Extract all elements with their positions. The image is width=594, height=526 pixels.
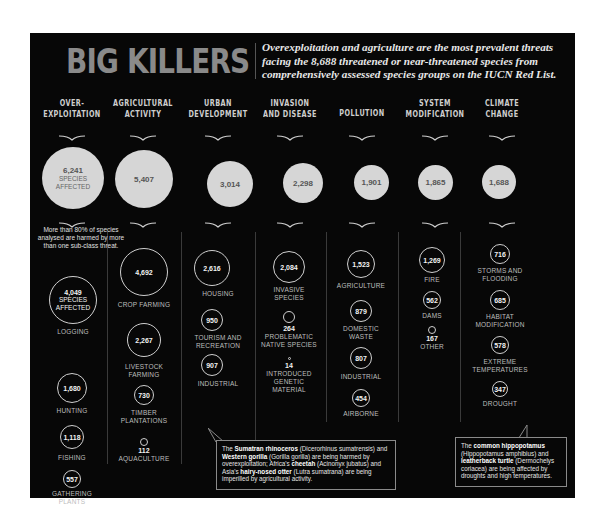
chevron-down-icon	[204, 221, 232, 229]
label-drought: DROUGHT	[460, 400, 540, 408]
value-problematic: 264	[249, 325, 329, 332]
total-circle-system: 1,865	[418, 165, 453, 200]
total-circle-invasion: 2,298	[283, 163, 323, 203]
label-industrial-pollution: INDUSTRIAL	[321, 373, 401, 381]
label-tourism-recreation: TOURISM ANDRECREATION	[178, 334, 258, 350]
chevron-down-icon	[348, 221, 376, 229]
label-logging: LOGGING	[33, 328, 113, 336]
label-industrial: INDUSTRIAL	[178, 380, 258, 388]
heading-invasion: INVASIONAND DISEASE	[255, 99, 325, 120]
heading-agricultural: AGRICULTURALACTIVITY	[108, 99, 178, 120]
label-introduced-genetic-material: INTRODUCEDGENETICMATERIAL	[249, 370, 329, 394]
page-title: BIG KILLERS	[66, 41, 249, 81]
sub-circle-drought: 347	[492, 381, 508, 397]
label-airborne: AIRBORNE	[321, 410, 401, 418]
total-circle-urban: 3,014	[207, 161, 253, 207]
callout-right: The common hippopotamus (Hippopotamus am…	[455, 437, 567, 487]
value-genetic: 14	[249, 362, 329, 369]
label-domestic-waste: DOMESTICWASTE	[321, 325, 401, 341]
chevron-down-icon	[129, 221, 157, 229]
label-other: OTHER	[392, 343, 472, 351]
total-circle-agricultural: 5,407	[115, 150, 173, 208]
total-circle-overexploitation: 6,241SPECIESAFFECTED	[42, 147, 104, 209]
sub-circle-aquaculture	[140, 438, 148, 446]
column-divider	[107, 232, 108, 464]
value-aquaculture: 112	[104, 447, 184, 454]
sub-circle-storms: 716	[490, 244, 510, 264]
callout-left: The Sumatran rhinoceros (Dicerorhinus su…	[216, 440, 396, 490]
label-timber-plantations: TIMBERPLANTATIONS	[104, 409, 184, 425]
label-extreme-temperatures: EXTREMETEMPERATURES	[460, 358, 540, 374]
label-livestock-farming: LIVESTOCKFARMING	[104, 363, 184, 379]
chevron-down-icon	[276, 134, 304, 142]
label-aquaculture: AQUACULTURE	[104, 455, 184, 463]
chevron-down-icon	[58, 134, 86, 142]
sub-circle-dams: 562	[423, 291, 441, 309]
annotation-note: More than 80% of species analysed are ha…	[36, 226, 126, 250]
sub-circle-housing: 2,616	[194, 250, 230, 286]
label-gathering-plants: GATHERINGPLANTS	[32, 490, 112, 506]
heading-overexploitation: OVER-EXPLOITATION	[37, 99, 107, 120]
heading-urban: URBANDEVELOPMENT	[183, 99, 253, 120]
sub-circle-fire: 1,269	[419, 247, 445, 273]
sub-circle-hunting: 1,680	[57, 373, 87, 403]
label-housing: HOUSING	[178, 290, 258, 298]
sub-circle-problematic	[283, 311, 295, 323]
chevron-down-icon	[421, 134, 449, 142]
sub-circle-gathering: 557	[63, 470, 81, 488]
label-invasive-species: INVASIVESPECIES	[249, 286, 329, 302]
chevron-down-icon	[488, 134, 516, 142]
label-problematic-native-species: PROBLEMATICNATIVE SPECIES	[249, 333, 329, 349]
heading-climate: CLIMATECHANGE	[467, 99, 537, 120]
sub-circle-habitat: 685	[490, 290, 510, 310]
sub-circle-extreme-temps: 578	[491, 336, 509, 354]
sub-circle-crop-farming: 4,692	[120, 248, 168, 296]
sub-circle-genetic	[288, 357, 291, 360]
heading-pollution: POLLUTION	[327, 109, 397, 120]
sub-circle-agriculture: 1,523	[347, 250, 375, 278]
label-storms-flooding: STORMS ANDFLOODING	[460, 267, 540, 283]
sub-circle-industrial-pollution: 807	[350, 347, 372, 369]
total-circle-pollution: 1,901	[354, 165, 389, 200]
infographic-panel: BIG KILLERS Overexploitation and agricul…	[30, 33, 575, 498]
sub-circle-fishing: 1,118	[60, 425, 84, 449]
chevron-down-icon	[421, 221, 449, 229]
label-crop-farming: CROP FARMING	[104, 301, 184, 309]
chevron-down-icon	[204, 134, 232, 142]
label-agriculture: AGRICULTURE	[321, 282, 401, 290]
label-hunting: HUNTING	[32, 407, 112, 415]
sub-circle-other	[428, 326, 436, 334]
title-divider	[255, 43, 256, 79]
label-habitat-modification: HABITATMODIFICATION	[460, 313, 540, 329]
sub-circle-tourism: 950	[201, 309, 223, 331]
total-circle-climate: 1,688	[482, 165, 516, 199]
sub-circle-domestic-waste: 879	[350, 300, 372, 322]
chevron-down-icon	[276, 221, 304, 229]
value-other: 167	[392, 335, 472, 342]
sub-circle-timber: 730	[134, 385, 154, 405]
sub-circle-invasive-species: 2,084	[273, 251, 305, 283]
heading-system: SYSTEMMODIFICATION	[400, 99, 470, 120]
sub-circle-logging: 4,049SPECIESAFFECTED	[49, 276, 97, 324]
chevron-down-icon	[129, 134, 157, 142]
sub-circle-industrial: 907	[201, 354, 223, 376]
chevron-down-icon	[348, 134, 376, 142]
label-fishing: FISHING	[32, 454, 112, 462]
subtitle: Overexploitation and agriculture are the…	[262, 41, 572, 82]
sub-circle-airborne: 454	[352, 389, 370, 407]
chevron-down-icon	[488, 221, 516, 229]
sub-circle-livestock: 2,267	[127, 323, 161, 357]
